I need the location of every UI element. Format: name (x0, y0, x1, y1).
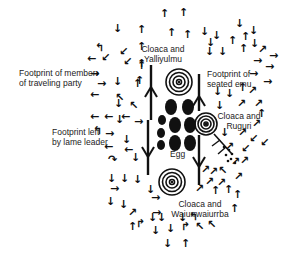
footprint-arrow-icon: ↙ (123, 56, 132, 67)
footprint-arrow-icon: ↓ (114, 98, 123, 109)
label-line: by lame leader (52, 138, 108, 148)
footprint-arrow-icon: ↓ (131, 152, 140, 163)
footprint-arrow-icon: ↙ (241, 143, 250, 154)
footprint-arrow-icon: ↖ (129, 100, 138, 111)
footprint-arrow-icon: ↑ (183, 29, 192, 40)
footprint-arrow-icon: ← (87, 53, 96, 64)
label-cloaca-waiurrwaiurrba: Cloaca and Waiurrwaiurrba (170, 200, 230, 219)
footprint-arrow-icon: ↑ (230, 203, 239, 214)
footprint-arrow-icon: ↑ (137, 24, 146, 35)
footprint-arrow-icon: ← (90, 111, 99, 122)
footprint-arrow-icon: ↓ (133, 174, 142, 185)
footprint-arrow-icon: ↖ (207, 219, 216, 230)
footprint-arrow-icon: ↱ (181, 221, 190, 232)
label-egg: Egg (170, 150, 185, 160)
egg-shape (157, 140, 165, 150)
footprint-arrow-icon: ↓ (113, 23, 122, 34)
footprint-arrow-icon: ↓ (113, 76, 122, 87)
ruguri-cloaca-circle (195, 113, 217, 135)
footprint-arrow-icon: ← (90, 89, 99, 100)
footprint-arrow-icon: → (134, 116, 143, 127)
footprint-arrow-icon: ↱ (136, 218, 145, 229)
label-line: Waiurrwaiurrba (170, 210, 230, 220)
footprint-arrow-icon: ↓ (151, 225, 160, 236)
footprint-arrow-icon: ↖ (218, 165, 227, 176)
footprint-arrow-icon: ↑ (167, 27, 176, 38)
footprint-arrow-icon: → (151, 192, 160, 203)
label-line: Egg (170, 150, 185, 160)
label-member-footprint: Footprint of member of traveling party (19, 69, 96, 88)
eggs-group (157, 99, 196, 151)
label-cloaca-ruguri: Cloaca and Ruguri (216, 112, 262, 131)
footprint-arrow-icon: ↓ (119, 199, 128, 210)
footprint-arrow-icon: ↗ (237, 98, 246, 109)
footprint-arrow-icon: ↙ (101, 52, 110, 63)
footprint-arrow-icon: ↗ (240, 155, 249, 166)
egg-shape (184, 135, 196, 151)
emu-track-up (193, 74, 205, 111)
emu-track-up (145, 65, 157, 120)
egg-shape (157, 128, 165, 138)
footprint-arrow-icon: ↓ (218, 46, 227, 57)
label-line: Yalliyulmu (140, 55, 186, 65)
label-cloaca-yalliyulmu: Cloaca and Yalliyulmu (140, 45, 186, 64)
egg-shape (184, 117, 196, 133)
footprint-arrow-icon: ↑ (211, 185, 220, 196)
footprint-arrow-icon: ↓ (166, 223, 175, 234)
footprint-arrow-icon: ↷ (108, 154, 117, 165)
label-line: of traveling party (19, 79, 96, 89)
footprint-arrow-icon: ↓ (249, 25, 258, 36)
footprint-arrow-icon: → (253, 55, 262, 66)
footprint-arrow-icon: ↗ (234, 171, 243, 182)
footprint-arrow-icon: → (263, 76, 272, 87)
footprint-arrow-icon: ↑ (233, 189, 242, 200)
footprint-arrow-icon: ← (121, 111, 130, 122)
footprint-arrow-icon: ← (104, 111, 113, 122)
footprint-arrow-icon: ↗ (195, 183, 204, 194)
emu-track-down (142, 120, 154, 175)
footprint-arrow-icon: → (110, 183, 119, 194)
footprint-arrow-icon: ↓ (157, 212, 166, 223)
footprint-arrow-icon: ↓ (148, 212, 157, 223)
label-lame-leader: Footprint left by lame leader (52, 128, 108, 147)
footprint-arrow-icon: ↙ (249, 133, 258, 144)
footprint-arrow-icon: ↓ (235, 18, 244, 29)
egg-shape (158, 115, 166, 125)
footprint-arrow-icon: ↗ (225, 141, 234, 152)
footprint-arrow-icon: ↓ (163, 238, 172, 249)
footprint-arrow-icon: ↑ (133, 78, 142, 89)
footprint-arrow-icon: ↗ (231, 156, 240, 167)
label-line: Ruguri (216, 122, 262, 132)
footprint-arrow-icon: ↖ (195, 221, 204, 232)
footprint-arrow-icon: ↑ (228, 35, 237, 46)
egg-shape (169, 117, 181, 133)
footprint-arrow-icon: → (265, 61, 274, 72)
yalliyulmu-cloaca-circle (166, 69, 192, 95)
label-seated-emu: Footprint of seated emu (207, 70, 251, 89)
footprint-arrow-icon: ↑ (241, 31, 250, 42)
footprint-arrow-icon: ↓ (120, 173, 129, 184)
footprint-arrow-icon: ↓ (225, 88, 234, 99)
egg-shape (182, 99, 194, 115)
footprint-arrow-icon: ↑ (224, 184, 233, 195)
footprint-arrow-icon: ↓ (106, 196, 115, 207)
wauirr-cloaca-circle (159, 169, 185, 195)
footprint-arrow-icon: ↓ (215, 100, 224, 111)
egg-shape (165, 99, 177, 115)
footprint-arrow-icon: ↑ (179, 7, 188, 18)
label-line: seated emu (207, 80, 251, 90)
footprint-arrow-icon: ↓ (205, 46, 214, 57)
footprint-arrow-icon: ↑ (181, 238, 190, 249)
footprint-arrow-icon: ↑ (239, 43, 248, 54)
footprint-arrow-icon: ↑ (160, 8, 169, 19)
footprint-arrow-icon: ↙ (260, 137, 269, 148)
